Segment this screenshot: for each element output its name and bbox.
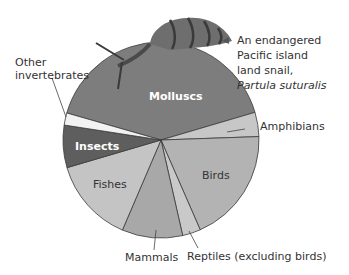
reptiles-leader — [189, 231, 198, 248]
label-insects: Insects — [75, 140, 119, 153]
label-reptiles: Reptiles (excluding birds) — [187, 250, 326, 263]
label-fishes: Fishes — [93, 178, 127, 191]
label-mammals: Mammals — [125, 251, 178, 264]
label-amphibians: Amphibians — [260, 120, 325, 133]
label-other-invertebrates: Other invertebrates — [15, 56, 89, 82]
label-molluscs: Molluscs — [149, 90, 203, 103]
snail-caption: ◀ An endangered Pacific island land snai… — [237, 33, 327, 93]
pointer-arrow-icon: ◀ — [222, 33, 229, 48]
label-birds: Birds — [202, 169, 230, 182]
